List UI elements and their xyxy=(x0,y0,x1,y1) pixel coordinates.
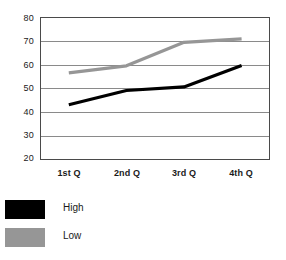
series-layer xyxy=(40,17,270,160)
x-tick-label-2: 2nd Q xyxy=(98,168,156,178)
y-tick-label: 40 xyxy=(0,107,34,117)
x-tick-label-4: 4th Q xyxy=(212,168,270,178)
legend-label-high: High xyxy=(63,202,84,213)
y-tick-label: 70 xyxy=(0,36,34,46)
y-tick-label: 20 xyxy=(0,153,34,163)
y-tick-label: 50 xyxy=(0,83,34,93)
legend-swatch-low xyxy=(5,228,45,247)
legend-label-low: Low xyxy=(63,230,81,241)
x-tick-label-3: 3rd Q xyxy=(155,168,213,178)
y-tick-label: 30 xyxy=(0,130,34,140)
series-line-low xyxy=(69,39,242,73)
chart-legend: High Low xyxy=(0,196,286,256)
x-tick-label-1: 1st Q xyxy=(40,168,98,178)
series-line-high xyxy=(69,66,242,105)
legend-swatch-high xyxy=(5,200,45,219)
y-tick-label: 60 xyxy=(0,60,34,70)
y-tick-label: 80 xyxy=(0,13,34,23)
chart-page: 80 70 60 50 40 30 20 1st Q 2nd Q 3rd Q 4… xyxy=(0,0,286,260)
line-chart: 80 70 60 50 40 30 20 1st Q 2nd Q 3rd Q 4… xyxy=(0,0,286,190)
